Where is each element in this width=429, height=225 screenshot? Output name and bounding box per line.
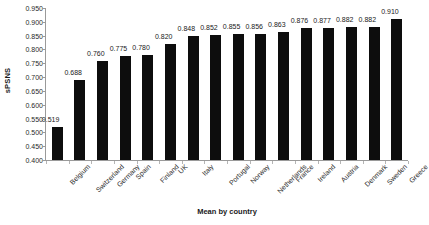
y-axis-tick-label: 0.400 [15,157,43,164]
y-axis-tick-label: 0.600 [15,101,43,108]
y-axis-tick-mark [42,105,45,106]
x-axis-tick-mark [385,161,386,164]
bar-value-label: 0.519 [42,116,60,123]
x-axis-tick-label: UK [177,163,189,175]
bar [346,27,357,160]
x-axis-tick-label: Finland [159,163,180,184]
bar [369,27,380,160]
y-axis-tick-mark [42,119,45,120]
x-axis-title: Mean by country [46,207,408,216]
x-axis-tick-mark [204,161,205,164]
bar-value-label: 0.820 [155,33,173,40]
x-axis-tick-mark [340,161,341,164]
bar [278,32,289,160]
y-axis-tick-mark [42,91,45,92]
x-axis-tick-label: Denmark [364,163,389,188]
bar [165,44,176,160]
y-axis-tick-mark [42,22,45,23]
x-axis-tick-label: Greece [407,163,428,184]
y-axis-title-text: sPSNS [4,67,13,93]
bar [74,80,85,160]
y-axis-tick-labels: 0.9500.9000.8500.8000.7500.7000.6500.600… [15,8,43,160]
y-axis-tick-label: 0.550 [15,115,43,122]
bar-value-label: 0.855 [223,23,241,30]
y-axis-tick-label: 0.450 [15,143,43,150]
y-axis-tick-mark [42,77,45,78]
y-axis-tick-mark [42,8,45,9]
x-axis-tick-mark [91,161,92,164]
x-axis-tick-label: Austria [339,163,359,183]
x-axis-tick-label: Ireland [316,163,336,183]
x-axis-tick-mark [182,161,183,164]
bar-value-label: 0.775 [110,45,128,52]
y-axis-tick-label: 0.850 [15,32,43,39]
x-axis-tick-mark [250,161,251,164]
y-axis-title: sPSNS [0,0,16,160]
bar-value-label: 0.882 [336,16,354,23]
bar [210,35,221,160]
bar [255,34,266,160]
y-axis-tick-label: 0.650 [15,87,43,94]
x-axis-tick-labels: BelgiumSwitzerlandGermanySpainFinlandUKI… [46,163,408,205]
x-axis-tick-mark [408,161,409,164]
bar-value-label: 0.882 [359,16,377,23]
bar-value-label: 0.688 [64,69,82,76]
x-axis-tick-mark [363,161,364,164]
bar-value-label: 0.760 [87,50,105,57]
bar [391,19,402,160]
bar-value-label: 0.848 [178,25,196,32]
bar-value-label: 0.910 [381,8,399,15]
y-axis-tick-label: 0.750 [15,60,43,67]
bar-value-label: 0.852 [200,24,218,31]
bar [120,56,131,160]
plot-area: 0.5190.6880.7600.7750.7800.8200.8480.852… [46,8,408,160]
y-axis-tick-mark [42,160,45,161]
bar [52,127,63,160]
x-axis-tick-label: Sweden [385,163,408,186]
x-axis-tick-label: Portugal [227,163,250,186]
bar [97,61,108,160]
bar-value-label: 0.876 [291,17,309,24]
bar-value-label: 0.856 [245,23,263,30]
bar [301,28,312,160]
bar-value-label: 0.877 [313,17,331,24]
bar [323,28,334,160]
y-axis-tick-label: 0.800 [15,46,43,53]
y-axis-tick-mark [42,36,45,37]
y-axis-tick-mark [42,146,45,147]
x-axis-tick-mark [46,161,47,164]
x-axis-tick-mark [159,161,160,164]
y-axis-tick-mark [42,132,45,133]
y-axis-tick-label: 0.950 [15,5,43,12]
x-axis-tick-mark [318,161,319,164]
x-axis-tick-label: Italy [201,163,215,177]
x-axis-tick-label: Norway [249,163,271,185]
x-axis-tick-mark [69,161,70,164]
bar [142,55,153,160]
x-axis-tick-mark [114,161,115,164]
y-axis-tick-label: 0.700 [15,74,43,81]
y-axis-tick-mark [42,49,45,50]
x-axis-tick-mark [295,161,296,164]
y-axis-tick-mark [42,63,45,64]
bar-value-label: 0.780 [132,44,150,51]
bar [188,36,199,160]
y-axis-tick-label: 0.900 [15,18,43,25]
x-axis-tick-mark [272,161,273,164]
x-axis-tick-mark [227,161,228,164]
bar-value-label: 0.863 [268,21,286,28]
bar [233,34,244,160]
y-axis-tick-label: 0.500 [15,129,43,136]
x-axis-tick-mark [137,161,138,164]
x-axis-tick-label: Belgium [69,163,92,186]
